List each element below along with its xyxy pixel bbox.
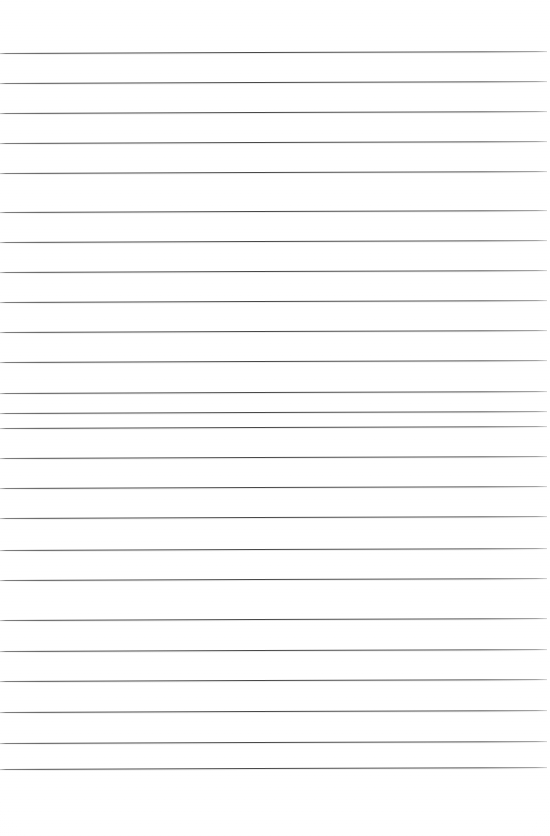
ruled-line — [0, 391, 547, 394]
ruled-line — [0, 486, 547, 489]
ruled-line — [0, 111, 547, 114]
ruled-line — [0, 330, 547, 333]
ruled-line — [0, 710, 547, 713]
ruled-line — [0, 270, 547, 273]
ruled-line — [0, 240, 547, 243]
lined-paper-page — [0, 0, 550, 836]
ruled-line — [0, 171, 547, 174]
ruled-line-layer — [0, 0, 550, 836]
ruled-line — [0, 141, 547, 144]
ruled-line — [0, 411, 547, 414]
ruled-line — [0, 741, 547, 744]
ruled-line — [0, 679, 547, 682]
ruled-line — [0, 210, 547, 213]
ruled-line — [0, 360, 547, 363]
ruled-line — [0, 767, 547, 770]
ruled-line — [0, 548, 547, 551]
ruled-line — [0, 618, 547, 621]
ruled-line — [0, 578, 547, 581]
ruled-line — [0, 649, 547, 652]
ruled-line — [0, 456, 547, 459]
ruled-line — [0, 81, 547, 84]
ruled-line — [0, 516, 547, 519]
ruled-line — [0, 300, 547, 303]
ruled-line — [0, 51, 547, 54]
ruled-line — [0, 426, 547, 429]
